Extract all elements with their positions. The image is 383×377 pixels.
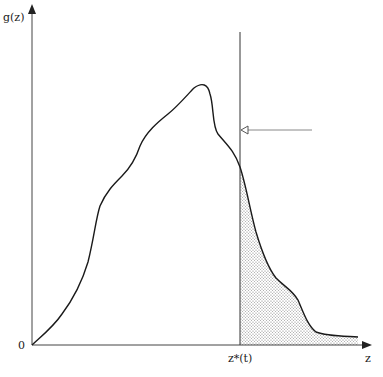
- y-axis-arrow-icon: [28, 4, 36, 14]
- x-axis-arrow-icon: [362, 341, 372, 349]
- shaded-tail-area: [240, 167, 358, 345]
- density-curve: [32, 85, 358, 345]
- origin-label: 0: [18, 339, 25, 352]
- density-diagram: g(z) 0 z*(t) z: [0, 0, 383, 377]
- threshold-label: z*(t): [228, 352, 252, 365]
- pointer-arrow-head-icon: [241, 126, 248, 134]
- x-axis-label: z: [365, 352, 371, 365]
- y-axis-label: g(z): [3, 11, 24, 24]
